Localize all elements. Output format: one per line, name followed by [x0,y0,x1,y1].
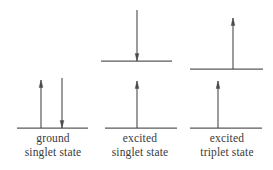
state-group-excited-triplet [190,18,263,128]
spin-arrowhead-ground-singlet-lower-level-spin-down [60,121,64,129]
label-ground-singlet-state: ground singlet state [6,132,100,159]
label-excited-singlet-line2: singlet state [93,146,187,160]
spin-arrowhead-excited-triplet-lower-level-spin-up [216,81,220,89]
spin-arrowhead-excited-singlet-lower-level-spin-up [135,81,139,89]
state-group-ground-singlet [17,78,88,128]
label-excited-triplet-line2: triplet state [180,146,273,160]
label-excited-triplet-state: excited triplet state [180,132,273,159]
spin-arrowhead-excited-triplet-upper-level-spin-up [231,18,235,26]
label-ground-line2: singlet state [6,146,100,160]
label-excited-singlet-line1: excited [93,132,187,146]
label-excited-triplet-line1: excited [180,132,273,146]
spin-arrowhead-excited-singlet-upper-level-spin-down [135,54,139,62]
label-ground-line1: ground [6,132,100,146]
figure-canvas: ground singlet state excited singlet sta… [0,0,273,170]
state-group-excited-singlet [101,10,177,128]
spin-arrowhead-ground-singlet-lower-level-spin-up [39,80,43,88]
label-excited-singlet-state: excited singlet state [93,132,187,159]
